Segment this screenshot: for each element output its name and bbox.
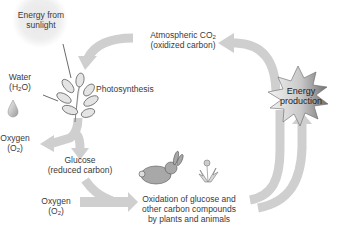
sunlight-pointer [63,44,71,78]
arrow-photosynthesis-to-glucose [40,118,89,160]
leaf-plant-icon [55,72,100,122]
arrow-oxidation-to-energy [250,110,312,208]
oxygen-out-label: Oxygen (O2) [0,133,30,153]
rabbit-icon [139,151,184,184]
energy-production-label: Energy production [276,86,326,106]
photosynthesis-label: Photosynthesis [96,84,154,94]
water-label: Water (H2O) [0,72,40,92]
glucose-label: Glucose (reduced carbon) [46,155,114,175]
co2-label: Atmospheric CO2 (oxidized carbon) [138,30,228,50]
water-pointer [43,95,58,101]
oxidation-label: Oxidation of glucose and other carbon co… [136,194,242,224]
arrow-glucose-to-oxidation [80,180,138,212]
oxygen-in-label: Oxygen (O2) [40,196,72,216]
arrow-co2-to-photosynthesis [78,38,133,70]
sunlight-label: Energy from sunlight [14,10,68,30]
water-drop-icon [8,100,18,117]
dandelion-icon [199,160,218,182]
